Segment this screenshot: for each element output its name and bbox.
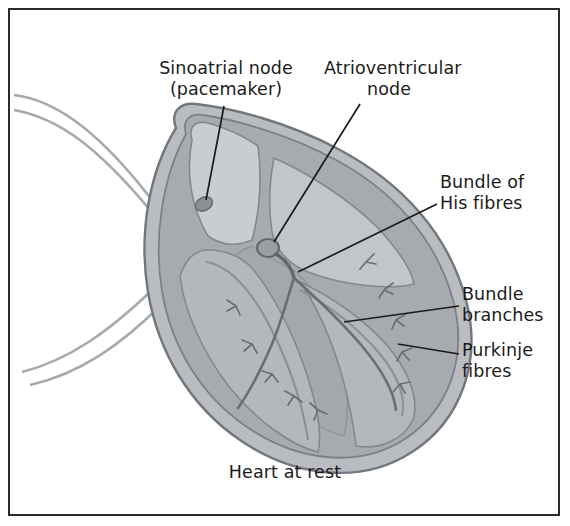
label-atrioventricular-node: Atrioventricular node [324,58,454,100]
label-bundle-of-his: Bundle of His fibres [440,172,552,214]
heart-conduction-diagram: Sinoatrial node (pacemaker) Atrioventric… [0,0,570,526]
figure-caption: Heart at rest [180,462,390,483]
label-purkinje-fibres: Purkinje fibres [462,340,562,382]
label-sinoatrial-node: Sinoatrial node (pacemaker) [150,58,302,100]
label-bundle-branches: Bundle branches [462,284,566,326]
